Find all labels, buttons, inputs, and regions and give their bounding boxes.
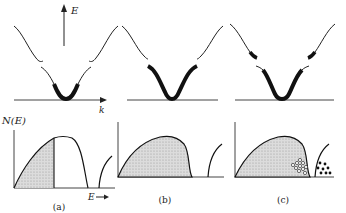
lower-band-left-empty	[41, 67, 54, 84]
panel-a-band: E k	[14, 4, 118, 115]
upper-band-right	[315, 24, 335, 52]
upper-band-left-electrons	[250, 52, 257, 58]
k-arrow-icon	[100, 97, 107, 103]
energy-arrow-icon	[104, 195, 109, 200]
upper-band-left	[14, 26, 43, 62]
panel-c-dos: (c)	[235, 122, 334, 205]
panel-caption-b: (b)	[159, 195, 172, 205]
lower-band-filled	[263, 70, 302, 99]
lower-band-right-holes	[302, 66, 309, 70]
k-axis-label: k	[99, 105, 104, 115]
upper-band-dos-curve	[208, 144, 222, 177]
panel-a-dos: N(E) E (a)	[1, 115, 115, 212]
dos-axis-label: N(E)	[1, 115, 26, 126]
occupied-states-shading	[14, 138, 54, 188]
upper-band-left	[122, 26, 148, 59]
energy-arrow-label: E	[87, 192, 95, 202]
lower-band-filled	[148, 66, 197, 99]
panel-caption-a: (a)	[53, 202, 65, 212]
upper-band-left	[230, 24, 250, 52]
panel-b-dos: (b)	[118, 122, 224, 205]
lower-band-filled	[54, 84, 78, 99]
upper-band-right	[89, 26, 118, 62]
upper-band-right	[197, 26, 223, 59]
upper-band-dos-curve	[99, 156, 112, 188]
panel-b-band	[122, 26, 223, 100]
panel-caption-c: (c)	[277, 195, 289, 205]
upper-band-right-electrons	[308, 52, 315, 58]
lower-band-right-empty	[78, 67, 91, 84]
lower-band-dos-filled	[118, 136, 192, 177]
energy-axis-label: E	[70, 5, 79, 16]
band-structure-figure: E k N(E)	[0, 0, 346, 213]
energy-arrow-icon	[61, 4, 67, 12]
electrons-filled-circles	[317, 162, 332, 175]
panel-c-band	[230, 24, 335, 100]
lower-band-left-holes	[256, 66, 263, 70]
